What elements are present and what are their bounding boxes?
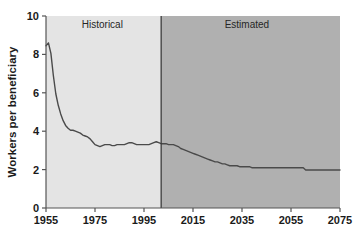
x-tick-label: 1955: [34, 214, 58, 226]
workers-per-beneficiary-line-chart: 1955197519952015203520552075 0246810 His…: [0, 0, 355, 240]
chart-figure: 1955197519952015203520552075 0246810 His…: [0, 0, 355, 240]
x-tick-label: 2075: [328, 214, 352, 226]
x-tick-label: 1995: [132, 214, 156, 226]
x-tick-label: 2015: [181, 214, 205, 226]
plot-regions: [46, 16, 340, 208]
y-tick-label: 6: [33, 87, 39, 99]
annotation-historical: Historical: [82, 19, 123, 30]
x-tick-label: 2055: [279, 214, 303, 226]
region-estimated: [161, 16, 340, 208]
annotation-estimated: Estimated: [225, 19, 269, 30]
x-tick-label: 2035: [230, 214, 254, 226]
y-axis-title: Workers per beneficiary: [6, 46, 18, 177]
y-tick-label: 0: [33, 202, 39, 214]
region-historical: [46, 16, 161, 208]
y-tick-label: 10: [27, 10, 39, 22]
y-tick-label: 8: [33, 48, 39, 60]
x-tick-label: 1975: [83, 214, 107, 226]
y-tick-label: 4: [33, 125, 40, 137]
y-tick-label: 2: [33, 164, 39, 176]
